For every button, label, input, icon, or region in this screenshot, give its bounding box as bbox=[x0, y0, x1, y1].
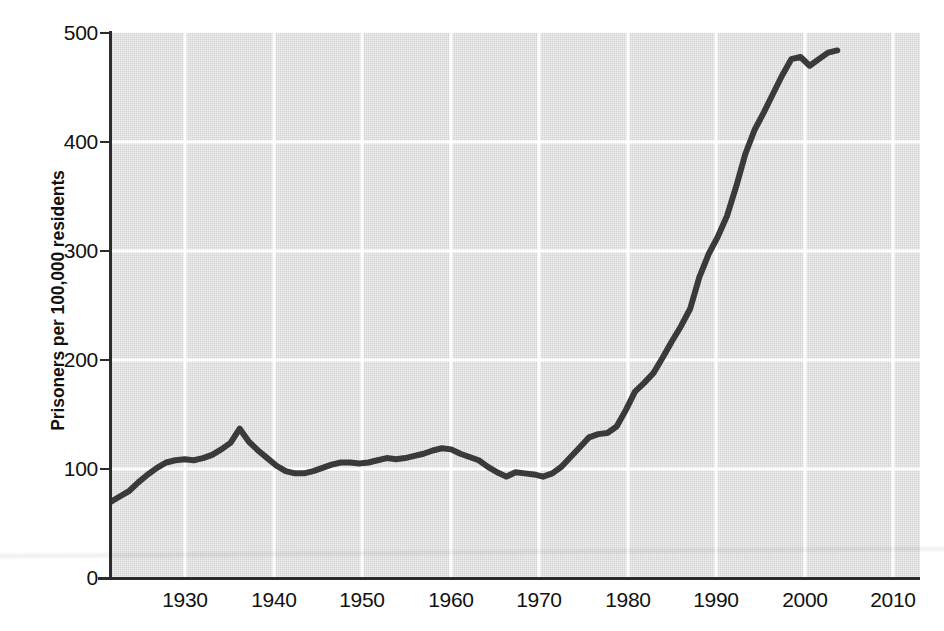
vertical-gridlines bbox=[185, 33, 893, 578]
x-tick-label-2010: 2010 bbox=[848, 588, 938, 612]
chart-figure: Prisoners per 100,000 residents 500 400 … bbox=[0, 0, 944, 631]
x-tick-label-1960: 1960 bbox=[406, 588, 496, 612]
x-tick-label-1980: 1980 bbox=[583, 588, 673, 612]
x-tick-label-1950: 1950 bbox=[317, 588, 407, 612]
y-tick-label-500: 500 bbox=[38, 21, 98, 45]
x-axis-line bbox=[98, 577, 920, 580]
y-tick-label-400: 400 bbox=[38, 130, 98, 154]
x-tick-label-2000: 2000 bbox=[760, 588, 850, 612]
y-tick-label-100: 100 bbox=[38, 457, 98, 481]
horizontal-gridlines bbox=[111, 142, 920, 469]
data-series-line bbox=[111, 50, 837, 501]
y-axis-line bbox=[109, 31, 112, 580]
chart-canvas bbox=[111, 33, 920, 578]
x-tick-label-1990: 1990 bbox=[671, 588, 761, 612]
x-tick-label-1970: 1970 bbox=[494, 588, 584, 612]
y-tick-label-200: 200 bbox=[38, 348, 98, 372]
y-tick-label-300: 300 bbox=[38, 239, 98, 263]
y-tick-label-0: 0 bbox=[38, 566, 98, 590]
x-tick-label-1940: 1940 bbox=[229, 588, 319, 612]
plot-area bbox=[111, 33, 920, 578]
x-tick-label-1930: 1930 bbox=[140, 588, 230, 612]
